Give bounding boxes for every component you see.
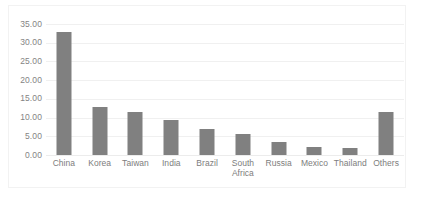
bar-slot	[82, 24, 118, 155]
x-axis-tick-label: Brazil	[189, 158, 225, 168]
bar[interactable]	[307, 147, 322, 155]
x-axis-tick-label: Korea	[82, 158, 118, 168]
x-axis-tick: Others	[368, 158, 404, 168]
bar[interactable]	[56, 32, 71, 156]
x-axis-tick: Brazil	[189, 158, 225, 168]
x-axis-tick-label: Thailand	[332, 158, 368, 168]
y-axis-tick-label: 5.00	[2, 132, 42, 141]
bar[interactable]	[235, 134, 250, 155]
x-axis-tick-label: Taiwan	[118, 158, 154, 168]
bar-slot	[225, 24, 261, 155]
y-axis-tick-label: 0.00	[2, 151, 42, 160]
bar-slot	[118, 24, 154, 155]
bar-chart: 35.0030.0025.0020.0015.0010.005.000.00 C…	[0, 0, 422, 203]
bar-slot	[332, 24, 368, 155]
x-axis-tick: China	[46, 158, 82, 168]
x-axis-tick-label: South Africa	[225, 158, 261, 178]
x-axis-tick-label: Russia	[261, 158, 297, 168]
x-axis-tick: South Africa	[225, 158, 261, 178]
x-axis-tick: Mexico	[297, 158, 333, 168]
bar-slot	[261, 24, 297, 155]
y-axis-tick-label: 30.00	[2, 38, 42, 47]
y-axis-tick-label: 35.00	[2, 20, 42, 29]
bar-slot	[297, 24, 333, 155]
bar-slot	[189, 24, 225, 155]
bar[interactable]	[128, 112, 143, 155]
bar[interactable]	[92, 107, 107, 155]
y-axis-tick-label: 25.00	[2, 57, 42, 66]
x-axis-tick-label: India	[153, 158, 189, 168]
bar-slot	[46, 24, 82, 155]
bar-slot	[153, 24, 189, 155]
bar[interactable]	[200, 129, 215, 155]
x-axis-tick-label: China	[46, 158, 82, 168]
x-axis-tick-label: Mexico	[297, 158, 333, 168]
bar[interactable]	[343, 148, 358, 155]
y-axis-tick-label: 15.00	[2, 94, 42, 103]
x-axis: ChinaKoreaTaiwanIndiaBrazilSouth AfricaR…	[46, 158, 404, 188]
plot-area	[46, 24, 404, 155]
bar-slot	[368, 24, 404, 155]
y-axis-tick-label: 10.00	[2, 113, 42, 122]
x-axis-tick: Korea	[82, 158, 118, 168]
x-axis-tick: India	[153, 158, 189, 168]
x-axis-tick: Thailand	[332, 158, 368, 168]
y-axis: 35.0030.0025.0020.0015.0010.005.000.00	[0, 24, 42, 155]
x-axis-tick-label: Others	[368, 158, 404, 168]
bar[interactable]	[164, 120, 179, 155]
bar[interactable]	[271, 142, 286, 155]
y-axis-tick-label: 20.00	[2, 76, 42, 85]
bar[interactable]	[379, 112, 394, 155]
gridline	[46, 155, 404, 156]
x-axis-tick: Russia	[261, 158, 297, 168]
x-axis-tick: Taiwan	[118, 158, 154, 168]
